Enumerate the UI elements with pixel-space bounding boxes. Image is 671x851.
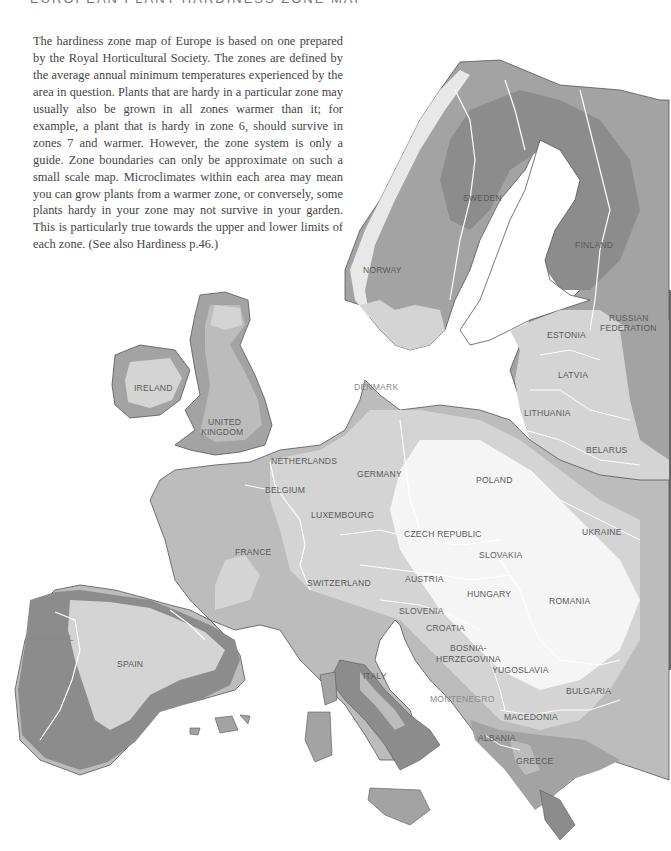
country-label-estonia: ESTONIA <box>547 330 586 340</box>
country-label-russian: RUSSIAN <box>609 313 649 323</box>
country-label-finland: FINLAND <box>575 240 613 250</box>
europe-hardiness-map <box>0 0 671 851</box>
country-label-portugal: PORTUGAL <box>25 633 74 643</box>
country-label-france: FRANCE <box>235 547 272 557</box>
country-label-montenegro: MONTENEGRO <box>430 694 495 704</box>
country-label-austria: AUSTRIA <box>405 574 444 584</box>
country-label-czech-republic: CZECH REPUBLIC <box>404 529 482 539</box>
country-label-bulgaria: BULGARIA <box>566 686 611 696</box>
country-label-denmark: DENMARK <box>354 382 398 392</box>
country-label-united: UNITED <box>208 417 241 427</box>
country-label-italy: ITALY <box>363 671 387 681</box>
country-label-croatia: CROATIA <box>426 623 465 633</box>
country-label-federation: FEDERATION <box>600 323 657 333</box>
country-label-bosnia: BOSNIA- <box>450 643 487 653</box>
country-label-belarus: BELARUS <box>586 445 628 455</box>
country-label-luxembourg: LUXEMBOURG <box>311 510 374 520</box>
country-label-herzegovina: HERZEGOVINA <box>436 654 501 664</box>
country-label-latvia: LATVIA <box>558 370 588 380</box>
country-label-romania: ROMANIA <box>549 596 591 606</box>
country-label-ukraine: UKRAINE <box>582 527 622 537</box>
country-label-yugoslavia: YUGOSLAVIA <box>492 665 549 675</box>
country-label-greece: GREECE <box>516 756 554 766</box>
country-label-kingdom: KINGDOM <box>201 427 243 437</box>
country-label-germany: GERMANY <box>357 469 402 479</box>
country-label-sweden: SWEDEN <box>463 193 502 203</box>
country-label-slovakia: SLOVAKIA <box>479 550 522 560</box>
country-label-slovenia: SLOVENIA <box>399 606 444 616</box>
country-label-ireland: IRELAND <box>134 383 173 393</box>
country-label-norway: NORWAY <box>363 265 402 275</box>
country-label-albania: ALBANIA <box>478 733 516 743</box>
country-label-belgium: BELGIUM <box>265 485 305 495</box>
country-label-macedonia: MACEDONIA <box>504 712 558 722</box>
country-label-poland: POLAND <box>476 475 513 485</box>
country-label-spain: SPAIN <box>117 659 143 669</box>
country-label-hungary: HUNGARY <box>467 589 511 599</box>
country-label-switzerland: SWITZERLAND <box>307 578 371 588</box>
country-label-lithuania: LITHUANIA <box>524 408 571 418</box>
ireland-island <box>112 345 190 418</box>
country-label-netherlands: NETHERLANDS <box>271 456 337 466</box>
